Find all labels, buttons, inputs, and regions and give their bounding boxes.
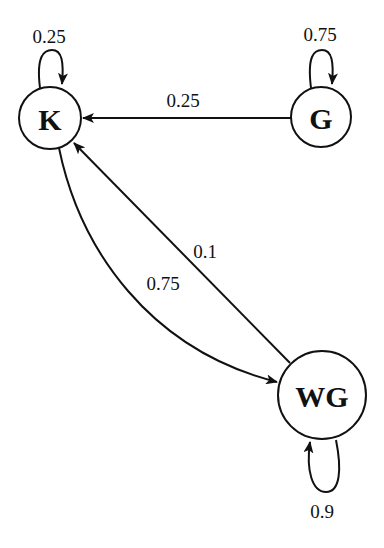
node-label-k: K	[38, 103, 62, 136]
edge-label-k-wg: 0.75	[146, 273, 179, 294]
edge-label-g-k: 0.25	[166, 90, 199, 111]
edge-label-g-g: 0.75	[303, 24, 336, 45]
node-wg: WG	[278, 351, 366, 439]
node-k: K	[19, 87, 81, 149]
markov-diagram: 0.25 0.75 0.25 0.75 0.1 0.9 K G WG	[0, 0, 384, 548]
edge-label-wg-wg: 0.9	[310, 501, 334, 522]
edge-k-to-wg: 0.75	[59, 148, 277, 382]
edge-g-self-loop: 0.75	[303, 24, 336, 88]
edge-label-k-k: 0.25	[32, 26, 65, 47]
edge-k-self-loop: 0.25	[32, 26, 65, 88]
edge-g-to-k: 0.25	[83, 90, 291, 118]
edge-label-wg-k: 0.1	[193, 241, 217, 262]
node-label-g: G	[309, 102, 332, 135]
edge-wg-to-k: 0.1	[74, 143, 290, 363]
node-label-wg: WG	[295, 380, 348, 413]
edge-wg-self-loop: 0.9	[309, 440, 339, 522]
node-g: G	[291, 87, 351, 147]
